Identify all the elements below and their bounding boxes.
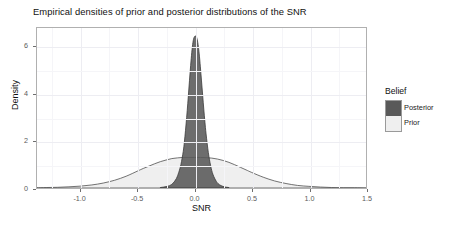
y-tick-label: 0 — [4, 184, 28, 193]
x-tick-mark — [195, 189, 196, 192]
x-tick-label: 0.0 — [180, 194, 210, 203]
gridline-horizontal-minor — [37, 119, 366, 120]
x-tick-mark — [252, 189, 253, 192]
chart-container: Empirical densities of prior and posteri… — [0, 0, 450, 226]
gridline-horizontal — [37, 95, 366, 96]
gridline-horizontal — [37, 47, 366, 48]
x-tick-label: 1.0 — [295, 194, 325, 203]
legend-labels: PosteriorPrior — [404, 100, 434, 130]
density-curves — [37, 28, 366, 188]
legend: Belief PosteriorPrior — [385, 86, 407, 135]
legend-label-prior: Prior — [404, 115, 434, 130]
x-tick-label: 1.5 — [352, 194, 382, 203]
gridline-vertical — [138, 28, 139, 188]
legend-keys[interactable] — [385, 100, 402, 132]
y-tick-mark — [33, 141, 36, 142]
y-tick-label: 2 — [4, 136, 28, 145]
gridline-vertical-minor — [167, 28, 168, 188]
gridline-vertical — [253, 28, 254, 188]
gridline-vertical-minor — [109, 28, 110, 188]
y-tick-mark — [33, 46, 36, 47]
gridline-vertical-minor — [52, 28, 53, 188]
legend-item-prior[interactable] — [386, 116, 401, 131]
gridline-horizontal-minor — [37, 166, 366, 167]
x-tick-mark — [137, 189, 138, 192]
y-tick-label: 6 — [4, 41, 28, 50]
gridline-vertical — [196, 28, 197, 188]
x-tick-mark — [310, 189, 311, 192]
legend-swatch-prior — [386, 116, 401, 131]
x-tick-mark — [367, 189, 368, 192]
gridline-vertical-minor — [282, 28, 283, 188]
x-tick-mark — [80, 189, 81, 192]
x-tick-label: -1.0 — [65, 194, 95, 203]
legend-label-posterior: Posterior — [404, 100, 434, 115]
legend-swatch-posterior — [386, 101, 401, 116]
gridline-vertical — [311, 28, 312, 188]
y-tick-mark — [33, 94, 36, 95]
legend-title: Belief — [385, 86, 407, 96]
gridline-horizontal — [37, 142, 366, 143]
gridline-vertical-minor — [224, 28, 225, 188]
y-tick-label: 4 — [4, 89, 28, 98]
y-tick-mark — [33, 189, 36, 190]
plot-panel — [36, 27, 367, 189]
x-axis-title: SNR — [36, 203, 367, 213]
plot-area — [37, 28, 366, 188]
gridline-horizontal-minor — [37, 71, 366, 72]
chart-title: Empirical densities of prior and posteri… — [33, 6, 307, 17]
gridline-vertical-minor — [339, 28, 340, 188]
legend-item-posterior[interactable] — [386, 101, 401, 116]
x-tick-label: 0.5 — [237, 194, 267, 203]
gridline-vertical — [81, 28, 82, 188]
x-tick-label: -0.5 — [122, 194, 152, 203]
